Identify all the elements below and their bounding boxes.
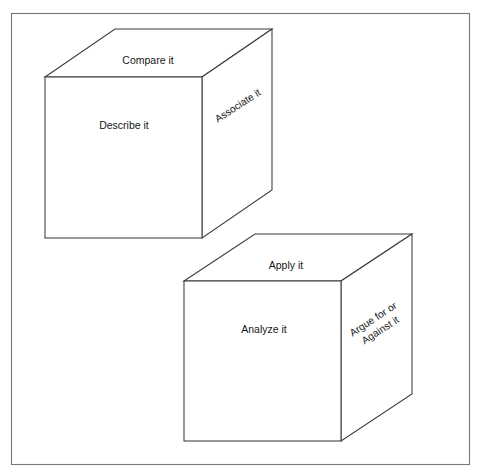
cube-analyze-it: Apply it Analyze it Argue for orAgainst … — [184, 234, 412, 441]
cube-1-front-face — [45, 77, 202, 238]
cubing-diagram: Compare it Describe it Associate it Appl… — [0, 0, 480, 473]
cube-1-top-label: Compare it — [122, 54, 173, 66]
cube-1-front-label: Describe it — [99, 119, 149, 131]
cube-describe-it: Compare it Describe it Associate it — [45, 29, 272, 238]
cube-2-top-label: Apply it — [269, 259, 304, 271]
diagram-canvas: Compare it Describe it Associate it Appl… — [0, 0, 480, 473]
cube-2-front-face — [184, 281, 341, 441]
cube-2-front-label: Analyze it — [241, 323, 287, 335]
